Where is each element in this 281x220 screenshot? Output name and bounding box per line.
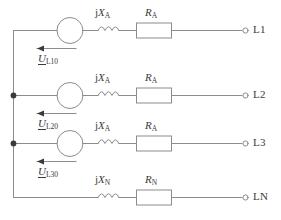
resistance-label-ln: RN [145,174,157,185]
resistor-l3 [137,136,172,151]
resistor-ln [137,190,172,205]
phasor-arrow-head-l2 [37,111,44,117]
terminal-node-l2 [243,93,248,98]
reactance-label-l1: jXA [95,7,110,18]
terminal-node-l1 [243,28,248,33]
reactance-label-l3: jXA [95,120,110,131]
terminal-label-l2: L2 [253,89,266,100]
phasor-label-l1: UL10 [38,53,58,64]
junction-dot-l3 [11,141,17,147]
phasor-arrow-head-l3 [37,159,44,165]
inductor-l2 [98,92,119,96]
terminal-label-l3: L3 [253,137,266,148]
junction-dot-l2 [11,93,17,99]
phasor-arrow-head-l1 [37,46,44,52]
phasor-label-l3: UL30 [38,166,58,177]
resistor-l2 [137,88,172,103]
reactance-label-l2: jXA [95,72,110,83]
terminal-node-ln [243,195,248,200]
terminal-label-l1: L1 [253,24,266,35]
voltage-source-l1 [57,18,83,44]
resistance-label-l2: RA [145,72,157,83]
voltage-source-l2 [57,83,83,109]
phasor-label-l2: UL20 [38,118,58,129]
inductor-l3 [98,140,119,144]
voltage-source-l3 [57,131,83,157]
resistance-label-l3: RA [145,120,157,131]
terminal-label-ln: LN [253,191,268,202]
reactance-label-ln: jXN [95,174,110,185]
inductor-l1 [98,27,119,31]
circuit-diagram: jXA jXA jXA jXN RA RA RA RN UL10 UL20 UL… [0,0,281,220]
resistance-label-l1: RA [145,7,157,18]
terminal-node-l3 [243,141,248,146]
circuit-schematic-canvas [0,0,281,220]
resistor-l1 [137,23,172,38]
inductor-ln [98,194,119,198]
